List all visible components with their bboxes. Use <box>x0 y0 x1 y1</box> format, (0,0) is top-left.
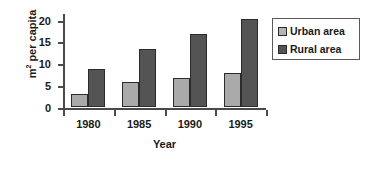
y-axis-tick-label: 0 <box>45 102 51 114</box>
chart-legend: Urban area Rural area <box>272 18 360 60</box>
legend-item-urban: Urban area <box>278 23 355 39</box>
bar-rural-1980 <box>88 69 105 107</box>
legend-item-rural: Rural area <box>278 41 355 57</box>
y-axis-tick-label: 20 <box>39 15 51 27</box>
y-axis-tick: 10 <box>58 64 63 66</box>
plot-area: 05101520 1980198519901995 <box>63 14 266 108</box>
legend-swatch-urban-icon <box>278 27 287 36</box>
y-axis-line <box>63 14 65 109</box>
x-axis-tick <box>215 110 217 116</box>
y-axis-tick: 15 <box>58 42 63 44</box>
x-axis-tick-label: 1980 <box>76 118 100 130</box>
bar-rural-1985 <box>139 49 156 107</box>
bar-urban-1995 <box>224 73 241 107</box>
legend-label-urban: Urban area <box>290 25 345 37</box>
y-axis-tick: 20 <box>58 21 63 23</box>
y-axis-tick-label: 15 <box>39 36 51 48</box>
x-axis-tick <box>114 110 116 116</box>
y-axis-title-superscript: 2 <box>25 65 32 69</box>
x-axis-tick <box>266 110 268 116</box>
y-axis-title-base: m <box>26 69 38 79</box>
legend-swatch-rural-icon <box>278 45 287 54</box>
x-axis-tick-label: 1985 <box>127 118 151 130</box>
x-axis-tick-label: 1995 <box>228 118 252 130</box>
x-axis-tick <box>165 110 167 116</box>
y-axis-tick: 5 <box>58 86 63 88</box>
bar-urban-1990 <box>173 78 190 107</box>
x-axis-tick <box>63 110 65 116</box>
x-axis-tick-label: 1990 <box>178 118 202 130</box>
bar-urban-1980 <box>71 94 88 107</box>
bar-urban-1985 <box>122 82 139 107</box>
chart-figure: m2 per capita 05101520 1980198519901995 … <box>0 0 370 170</box>
bar-rural-1995 <box>241 19 258 107</box>
y-axis-tick-label: 5 <box>45 80 51 92</box>
x-axis-title: Year <box>63 138 266 150</box>
y-axis-title-rest: per capita <box>26 10 38 65</box>
y-axis-title: m2 per capita <box>26 0 38 94</box>
bar-rural-1990 <box>190 34 207 107</box>
y-axis-tick-label: 10 <box>39 58 51 70</box>
legend-label-rural: Rural area <box>290 43 341 55</box>
